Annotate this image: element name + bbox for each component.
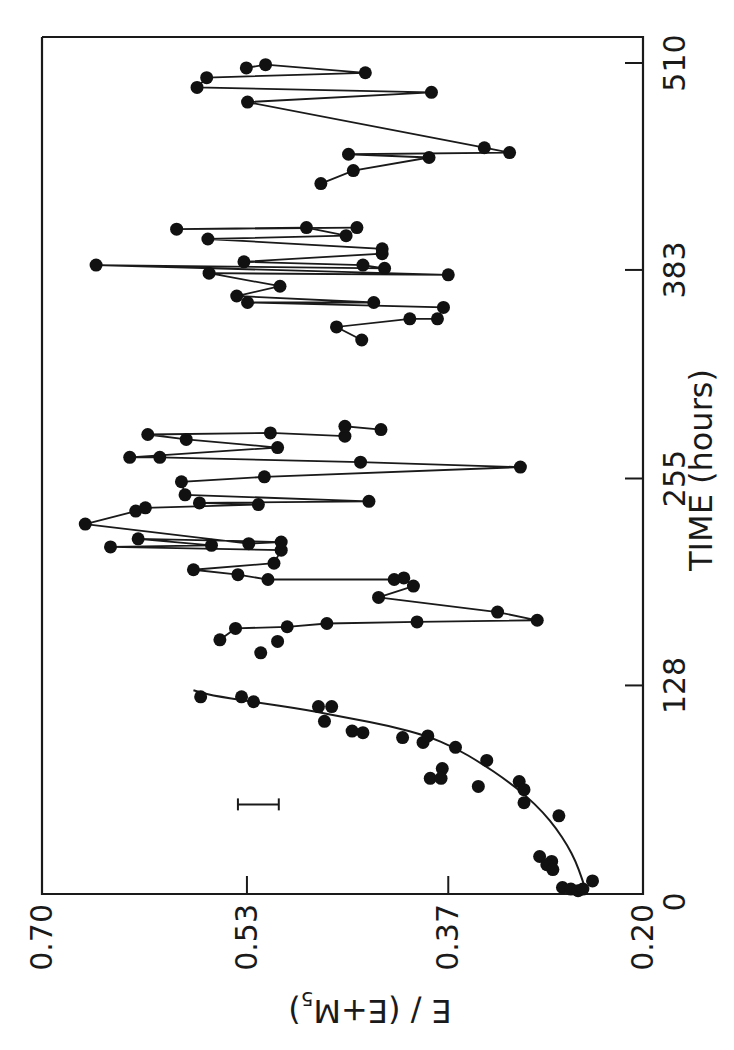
plot-frame — [42, 37, 643, 894]
data-point — [431, 312, 444, 325]
data-point — [281, 620, 294, 633]
data-point — [376, 242, 389, 255]
data-point — [79, 518, 92, 531]
data-point — [247, 695, 260, 708]
data-point — [314, 177, 327, 190]
data-point — [264, 426, 277, 439]
data-point — [354, 456, 367, 469]
data-point — [229, 622, 242, 635]
data-point — [372, 591, 385, 604]
data-point — [132, 532, 145, 545]
value-tick-label: 0.20 — [625, 904, 660, 971]
time-tick-label: 510 — [657, 34, 692, 91]
data-point — [200, 71, 213, 84]
data-point — [242, 537, 255, 550]
time-axis-label: TIME (hours) — [682, 369, 720, 572]
data-markers — [79, 58, 599, 897]
data-point — [90, 259, 103, 272]
data-point — [435, 772, 448, 785]
data-point — [235, 690, 248, 703]
data-point — [170, 223, 183, 236]
data-point — [300, 221, 313, 234]
data-point — [396, 731, 409, 744]
data-point — [241, 96, 254, 109]
data-point — [240, 61, 253, 74]
data-point — [237, 255, 250, 268]
data-point — [254, 646, 267, 659]
data-point — [231, 568, 244, 581]
data-point — [267, 557, 280, 570]
series-line — [96, 228, 448, 340]
data-point — [518, 796, 531, 809]
data-point — [518, 783, 531, 796]
data-point — [350, 221, 363, 234]
data-point — [356, 726, 369, 739]
data-point — [153, 451, 166, 464]
data-point — [230, 290, 243, 303]
data-point — [330, 320, 343, 333]
data-point — [258, 470, 271, 483]
data-point — [503, 146, 516, 159]
value-tick-label: 0.53 — [229, 904, 264, 971]
data-point — [546, 863, 559, 876]
data-point — [273, 280, 286, 293]
data-point — [340, 229, 353, 242]
time-tick-label: 128 — [657, 657, 692, 714]
data-point — [586, 874, 599, 887]
data-point — [271, 441, 284, 454]
data-point — [259, 58, 272, 71]
data-point — [191, 81, 204, 94]
data-point — [423, 151, 436, 164]
data-point — [425, 86, 438, 99]
data-point — [139, 501, 152, 514]
data-point — [241, 296, 254, 309]
data-point — [355, 334, 368, 347]
data-point — [478, 141, 491, 154]
data-point — [187, 563, 200, 576]
data-point — [193, 496, 206, 509]
data-point — [449, 741, 462, 754]
data-point — [472, 780, 485, 793]
data-point — [367, 296, 380, 309]
data-point — [271, 635, 284, 648]
data-point — [205, 539, 218, 552]
data-point — [442, 268, 455, 281]
data-point — [342, 148, 355, 161]
data-point — [175, 475, 188, 488]
value-tick-label: 0.70 — [24, 904, 59, 971]
data-point — [421, 729, 434, 742]
data-point — [378, 262, 391, 275]
time-tick-label: 0 — [657, 892, 692, 911]
data-point — [437, 301, 450, 314]
data-point — [359, 66, 372, 79]
data-point — [275, 536, 288, 549]
error-bar — [238, 798, 279, 810]
data-point — [480, 754, 493, 767]
data-point — [179, 488, 192, 501]
data-point — [374, 423, 387, 436]
data-point — [356, 259, 369, 272]
data-point — [411, 615, 424, 628]
value-axis-label: E / (E+M5) — [288, 987, 452, 1030]
data-point — [261, 573, 274, 586]
data-point — [123, 451, 136, 464]
rotated-scatter-chart: 0.700.530.370.200128255383510 TIME (hour… — [0, 0, 734, 1050]
data-point — [491, 606, 504, 619]
data-point — [201, 232, 214, 245]
data-point — [531, 614, 544, 627]
value-tick-label: 0.37 — [430, 904, 465, 971]
data-point — [141, 428, 154, 441]
data-point — [252, 498, 265, 511]
data-point — [403, 312, 416, 325]
time-tick-label: 383 — [657, 241, 692, 298]
data-point — [325, 700, 338, 713]
plot-border — [42, 37, 643, 894]
data-point — [203, 267, 216, 280]
data-point — [514, 461, 527, 474]
data-point — [194, 690, 207, 703]
series-line — [85, 426, 537, 639]
data-point — [338, 420, 351, 433]
data-point — [104, 540, 117, 553]
data-point — [320, 617, 333, 630]
data-point — [362, 495, 375, 508]
